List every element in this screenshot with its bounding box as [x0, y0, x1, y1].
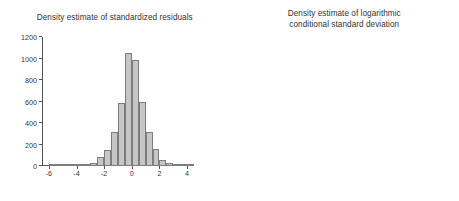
y-axis-tick-label: 0: [33, 162, 37, 171]
histogram-bar: [166, 163, 173, 166]
histogram-bar: [125, 53, 132, 166]
histogram-bar: [187, 164, 194, 166]
histogram-bar: [180, 164, 187, 166]
histogram-bar: [70, 164, 77, 166]
histogram-bar: [139, 102, 146, 166]
y-axis-tick-label: 1200: [21, 33, 37, 42]
page-title: Density estimate of standardized residua…: [0, 13, 230, 24]
y-axis-tick-label: 1000: [21, 54, 37, 63]
y-axis-tick: [39, 144, 42, 145]
histogram-bar: [132, 60, 139, 166]
y-axis-tick-label: 600: [25, 97, 37, 106]
y-axis-tick: [39, 58, 42, 59]
y-axis-tick-label: 800: [25, 76, 37, 85]
x-axis-tick-label: -4: [73, 169, 79, 178]
histogram-bar: [159, 160, 166, 166]
histogram-bar: [173, 164, 180, 166]
histogram-bar: [83, 164, 90, 166]
histogram-bar: [146, 132, 153, 166]
histogram-bar: [104, 150, 111, 166]
x-axis-tick-label: -6: [46, 169, 52, 178]
x-axis-tick-label: 4: [185, 169, 189, 178]
x-axis-tick-label: -2: [101, 169, 107, 178]
y-axis-tick: [39, 165, 42, 166]
figure-container: Density estimate of standardized residua…: [0, 0, 459, 201]
histogram-bar: [118, 103, 125, 166]
y-axis-tick: [39, 122, 42, 123]
y-axis-tick-label: 400: [25, 119, 37, 128]
y-axis-tick: [39, 79, 42, 80]
x-axis-tick-label: 2: [157, 169, 161, 178]
page-title: Density estimate of logarithmic conditio…: [230, 9, 459, 30]
y-axis-tick-label: 200: [25, 140, 37, 149]
histogram-bar: [63, 164, 70, 166]
y-axis-tick: [39, 101, 42, 102]
chart-panel-standardized-residuals: Density estimate of standardized residua…: [0, 0, 230, 201]
histogram-bar: [90, 163, 97, 166]
histogram-bars: [42, 37, 194, 166]
plot-area-standardized-residuals: 020040060080010001200 -6-4-2024: [42, 37, 194, 166]
x-axis-tick-label: 0: [130, 169, 134, 178]
histogram-bar: [77, 164, 84, 166]
histogram-bar: [97, 157, 104, 166]
histogram-bar: [153, 149, 160, 166]
histogram-bar: [49, 164, 56, 166]
histogram-bar: [56, 164, 63, 166]
histogram-bar: [111, 132, 118, 166]
chart-panel-log-conditional-standard-deviation: Density estimate of logarithmic conditio…: [230, 0, 459, 201]
y-axis-tick: [39, 36, 42, 37]
